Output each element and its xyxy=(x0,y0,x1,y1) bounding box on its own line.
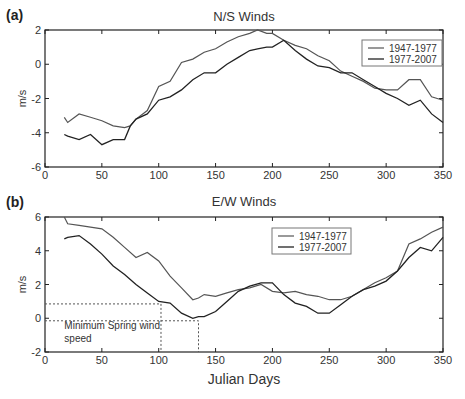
x-axis-label: Julian Days xyxy=(208,371,280,387)
x-tick-label: 150 xyxy=(206,169,224,181)
x-tick-label: 350 xyxy=(434,354,452,366)
x-tick-label: 100 xyxy=(150,354,168,366)
series-line-1977-2007 xyxy=(64,236,443,319)
legend-entry: 1947-1977 xyxy=(299,231,347,242)
x-tick-label: 0 xyxy=(42,354,48,366)
y-axis-label: m/s xyxy=(16,275,28,293)
x-tick-label: 250 xyxy=(320,354,338,366)
y-tick-label: 6 xyxy=(35,211,41,223)
legend: 1947-19771977-2007 xyxy=(362,40,442,66)
x-tick-label: 350 xyxy=(434,169,452,181)
annotation-text: Minimum Spring windspeed xyxy=(64,320,160,344)
panel-label: (a) xyxy=(6,7,23,23)
panel-b: (b)E/W Winds050100150200250300350-20246m… xyxy=(6,194,452,387)
y-tick-label: -4 xyxy=(31,127,41,139)
chart-title: N/S Winds xyxy=(213,9,275,24)
x-tick-label: 250 xyxy=(320,169,338,181)
legend-entry: 1947-1977 xyxy=(389,43,437,54)
y-axis-label: m/s xyxy=(16,89,28,107)
series-line-1947-1977 xyxy=(64,217,443,300)
x-tick-label: 200 xyxy=(263,169,281,181)
y-tick-label: -6 xyxy=(31,161,41,173)
y-tick-label: 0 xyxy=(35,312,41,324)
wind-charts: (a)N/S Winds050100150200250300350-6-4-20… xyxy=(0,0,465,399)
y-tick-label: 2 xyxy=(35,24,41,36)
x-tick-label: 0 xyxy=(42,169,48,181)
legend: 1947-19771977-2007 xyxy=(272,228,351,254)
x-tick-label: 100 xyxy=(150,169,168,181)
y-tick-label: 2 xyxy=(35,279,41,291)
legend-entry: 1977-2007 xyxy=(299,242,347,253)
legend-entry: 1977-2007 xyxy=(389,54,437,65)
panel-label: (b) xyxy=(6,194,24,210)
plot-frame xyxy=(45,217,443,352)
y-tick-label: -2 xyxy=(31,93,41,105)
y-tick-label: 4 xyxy=(35,245,41,257)
panel-a: (a)N/S Winds050100150200250300350-6-4-20… xyxy=(6,7,452,181)
x-tick-label: 200 xyxy=(263,354,281,366)
chart-title: E/W Winds xyxy=(212,194,277,209)
x-tick-label: 150 xyxy=(206,354,224,366)
x-tick-label: 300 xyxy=(377,354,395,366)
y-tick-label: 0 xyxy=(35,58,41,70)
x-tick-label: 50 xyxy=(96,169,108,181)
x-tick-label: 50 xyxy=(96,354,108,366)
y-tick-label: -2 xyxy=(31,346,41,358)
x-tick-label: 300 xyxy=(377,169,395,181)
